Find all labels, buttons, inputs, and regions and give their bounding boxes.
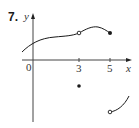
graph-svg — [0, 0, 139, 128]
open-circle-x5 — [108, 110, 112, 114]
y-axis-arrow-icon — [31, 13, 35, 19]
y-axis-label: y — [24, 10, 29, 22]
open-circle-x3 — [77, 31, 81, 35]
graph-figure: 7. y 0 3 5 x — [0, 0, 139, 128]
filled-dot-x5 — [108, 31, 112, 35]
origin-label: 0 — [26, 61, 32, 73]
curve-piece-1 — [22, 27, 110, 52]
curve-piece-2 — [110, 96, 129, 112]
x-tick-label-5: 5 — [107, 62, 113, 74]
x-axis-label: x — [126, 62, 131, 74]
isolated-dot-x3 — [77, 84, 81, 88]
x-tick-label-3: 3 — [76, 62, 82, 74]
